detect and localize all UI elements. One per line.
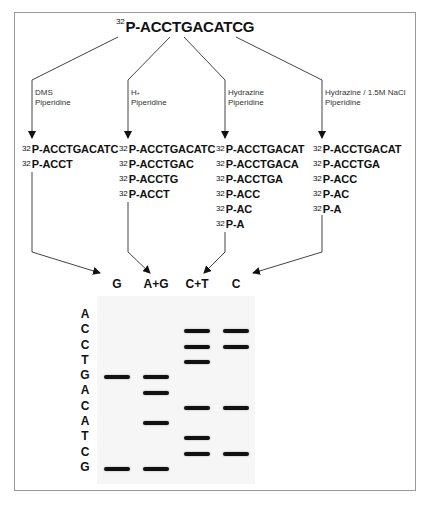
sequence-letter: G — [78, 460, 92, 475]
fragment-seq: P-ACCTGACATC — [32, 143, 119, 155]
sequence-letter: A — [78, 307, 92, 322]
sequence-letter: C — [78, 322, 92, 337]
gel-band — [223, 452, 249, 456]
isotope-superscript: 32 — [22, 159, 31, 168]
fragment-seq: P-A — [226, 218, 245, 230]
reagent-label-ct: Hydrazine Piperidine — [228, 88, 264, 108]
sequence-letter: A — [78, 414, 92, 429]
fragment: 32P-ACCTGA — [313, 157, 401, 172]
fragment: 32P-ACCT — [22, 157, 118, 172]
lane-label-c: C — [216, 277, 256, 291]
reagent-label-ag: H+ Piperidine — [131, 88, 167, 108]
reagent-line2: Piperidine — [35, 98, 71, 108]
gel-band — [223, 329, 249, 333]
gel-band — [184, 345, 210, 349]
isotope-superscript: 32 — [216, 159, 225, 168]
sequencing-gel — [97, 296, 255, 484]
gel-band — [223, 345, 249, 349]
fragment-seq: P-ACCTGACAT — [226, 143, 305, 155]
gel-band — [184, 436, 210, 440]
fragments-c: 32P-ACCTGACAT 32P-ACCTGA 32P-ACC 32P-AC … — [313, 142, 401, 217]
isotope-superscript: 32 — [313, 174, 322, 183]
fragment: 32P-AC — [313, 187, 401, 202]
fragment-seq: P-ACC — [323, 173, 357, 185]
gel-band — [184, 406, 210, 410]
fragments-ct: 32P-ACCTGACAT 32P-ACCTGACA 32P-ACCTGA 32… — [216, 142, 304, 232]
gel-band — [184, 360, 210, 364]
fragment-seq: P-AC — [323, 188, 350, 200]
gel-band — [104, 375, 130, 379]
isotope-superscript: 32 — [116, 17, 125, 26]
isotope-superscript: 32 — [313, 144, 322, 153]
fragment: 32P-ACCTGAC — [119, 157, 215, 172]
lane-label-ag: A+G — [136, 277, 176, 291]
gel-band — [104, 467, 130, 471]
reagent-line1: Hydrazine — [228, 88, 264, 98]
reagent-label-g: DMS Piperidine — [35, 88, 71, 108]
sequence-letter: T — [78, 353, 92, 368]
fragment: 32P-ACCTGACA — [216, 157, 304, 172]
reagent-line1: Hydrazine / 1.5M NaCl — [325, 88, 405, 98]
reagent-line2: Piperidine — [131, 98, 167, 108]
fragment: 32P-ACCTGA — [216, 172, 304, 187]
fragment: 32P-ACCT — [119, 187, 215, 202]
sequence-letter: C — [78, 399, 92, 414]
isotope-superscript: 32 — [119, 144, 128, 153]
fragment: 32P-ACC — [216, 187, 304, 202]
reagent-line2: Piperidine — [325, 98, 405, 108]
fragment-seq: P-ACCTGA — [226, 173, 283, 185]
fragment-seq: P-AC — [226, 203, 253, 215]
fragment: 32P-ACCTGACATC — [22, 142, 118, 157]
fragment-seq: P-ACCTGA — [323, 158, 380, 170]
isotope-superscript: 32 — [216, 144, 225, 153]
fragment: 32P-A — [216, 217, 304, 232]
fragments-g: 32P-ACCTGACATC 32P-ACCT — [22, 142, 118, 172]
fragment-seq: P-ACCTG — [129, 173, 178, 185]
fragment: 32P-ACCTGACAT — [313, 142, 401, 157]
sequence-letter: G — [78, 368, 92, 383]
gel-band — [184, 329, 210, 333]
gel-band — [143, 467, 169, 471]
fragment: 32P-ACC — [313, 172, 401, 187]
sequence-letter: A — [78, 383, 92, 398]
gel-band — [223, 406, 249, 410]
fragment-seq: P-ACCT — [32, 158, 73, 170]
fragment-seq: P-A — [323, 203, 342, 215]
fragment-seq: P-ACCT — [129, 188, 170, 200]
isotope-superscript: 32 — [22, 144, 31, 153]
reagent-line1: H+ — [131, 88, 167, 98]
gel-band — [184, 452, 210, 456]
fragments-ag: 32P-ACCTGACATC 32P-ACCTGAC 32P-ACCTG 32P… — [119, 142, 215, 202]
reagent-line2: Piperidine — [228, 98, 264, 108]
isotope-superscript: 32 — [313, 204, 322, 213]
fragment: 32P-ACCTGACATC — [119, 142, 215, 157]
isotope-superscript: 32 — [119, 159, 128, 168]
isotope-superscript: 32 — [313, 159, 322, 168]
sequence-letter: C — [78, 445, 92, 460]
gel-band — [143, 375, 169, 379]
fragment: 32P-AC — [216, 202, 304, 217]
gel-band — [143, 391, 169, 395]
isotope-superscript: 32 — [216, 219, 225, 228]
isotope-superscript: 32 — [216, 204, 225, 213]
fragment-seq: P-ACCTGACAT — [323, 143, 402, 155]
lane-label-g: G — [97, 277, 137, 291]
fragment-seq: P-ACCTGACA — [226, 158, 299, 170]
reagent-label-c: Hydrazine / 1.5M NaCl Piperidine — [325, 88, 405, 108]
isotope-superscript: 32 — [313, 189, 322, 198]
sequence-letter: C — [78, 338, 92, 353]
fragment: 32P-ACCTG — [119, 172, 215, 187]
fragment-seq: P-ACCTGAC — [129, 158, 194, 170]
isotope-superscript: 32 — [216, 189, 225, 198]
gel-band — [143, 421, 169, 425]
fragment: 32P-ACCTGACAT — [216, 142, 304, 157]
fragment-seq: P-ACC — [226, 188, 260, 200]
reagent-h-charge: + — [137, 90, 140, 96]
reagent-line1: DMS — [35, 88, 71, 98]
lane-label-ct: C+T — [177, 277, 217, 291]
oligo-sequence: P-ACCTGACATCG — [126, 18, 255, 35]
starting-oligo-label: 32P-ACCTGACATCG — [116, 18, 254, 35]
sequence-letter: T — [78, 429, 92, 444]
isotope-superscript: 32 — [119, 174, 128, 183]
fragment: 32P-A — [313, 202, 401, 217]
